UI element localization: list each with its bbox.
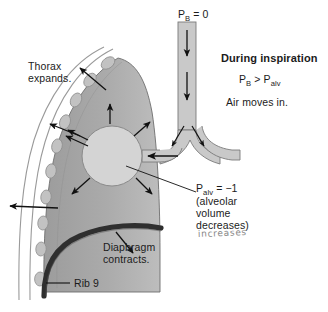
diaphragm-contracts-label-line2: contracts. — [103, 253, 150, 265]
during-inspiration-heading: During inspiration — [221, 52, 318, 64]
diaphragm-contracts-label-line1: Diaphragm — [103, 241, 155, 253]
bronchus-to-alveolus — [142, 148, 182, 162]
handwritten-correction: increases — [198, 227, 247, 239]
alveolus — [82, 126, 142, 186]
thorax-expands-label-line1: Thorax — [28, 60, 61, 72]
respiratory-mechanics-illustration — [0, 0, 328, 312]
alveolar-pressure-label: Palv = −1 — [196, 182, 238, 194]
pressure-relation-label: PB > Palv — [239, 73, 281, 85]
alveolar-note-line1: (alveolar — [196, 195, 237, 207]
alveolar-note-line2: volume — [196, 207, 230, 219]
barometric-pressure-label: PB = 0 — [178, 8, 209, 20]
air-moves-in-label: Air moves in. — [226, 96, 288, 108]
thorax-expands-label-line2: expands. — [28, 72, 71, 84]
rib-9-label: Rib 9 — [74, 277, 99, 289]
inspiration-diagram-figure: PB = 0 During inspiration PB > Palv Air … — [0, 0, 328, 312]
